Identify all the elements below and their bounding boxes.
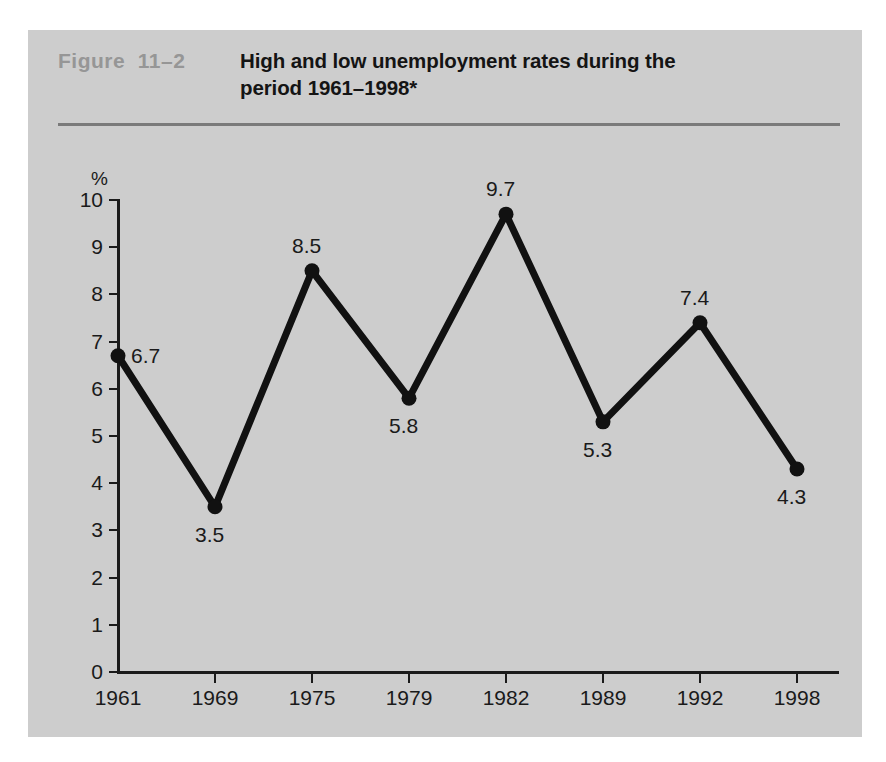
data-point-label: 5.3 (583, 439, 612, 460)
chart-plot-area: % 012345678910 1961196919751979198219891… (28, 30, 862, 737)
data-point-marker (402, 391, 417, 406)
data-point-markers (111, 207, 805, 515)
figure-root: Figure 11–2 High and low unemployment ra… (0, 0, 886, 762)
data-point-label: 4.3 (777, 486, 806, 507)
data-point-label: 3.5 (195, 524, 224, 545)
data-point-marker (305, 263, 320, 278)
data-point-label: 5.8 (389, 415, 418, 436)
data-point-label: 8.5 (292, 235, 321, 256)
data-point-marker (208, 499, 223, 514)
data-point-marker (693, 315, 708, 330)
data-point-label: 6.7 (131, 345, 160, 366)
data-point-marker (790, 462, 805, 477)
data-point-marker (111, 348, 126, 363)
data-point-marker (596, 414, 611, 429)
unemployment-rate-line (118, 214, 797, 507)
series-line-chart (28, 30, 862, 737)
data-point-label: 7.4 (680, 287, 709, 308)
data-point-label: 9.7 (486, 178, 515, 199)
figure-panel: Figure 11–2 High and low unemployment ra… (28, 30, 862, 737)
data-point-marker (499, 207, 514, 222)
